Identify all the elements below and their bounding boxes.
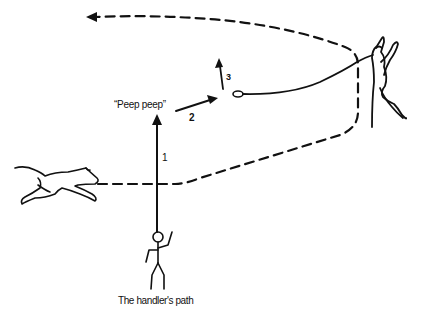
arrow-1-head-icon — [152, 114, 162, 125]
step-1-label: 1 — [162, 152, 168, 163]
step-3-label: 3 — [226, 72, 231, 82]
handler-arrow-2 — [176, 100, 210, 111]
arrow-2-head-icon — [207, 95, 218, 104]
handler-stick-figure — [146, 232, 172, 289]
handler-arrow-3 — [220, 66, 223, 89]
caption: The handler's path — [118, 295, 193, 306]
call-label: “Peep peep” — [114, 99, 166, 110]
path-arrowhead-icon — [86, 12, 97, 22]
leaping-dog-figure — [372, 37, 406, 127]
running-dog-figure — [15, 167, 98, 204]
arrow-3-head-icon — [215, 58, 223, 68]
lead-loop — [233, 91, 243, 97]
step-2-label: 2 — [189, 112, 195, 123]
lead-line — [243, 55, 373, 94]
diagram-canvas — [0, 0, 421, 313]
